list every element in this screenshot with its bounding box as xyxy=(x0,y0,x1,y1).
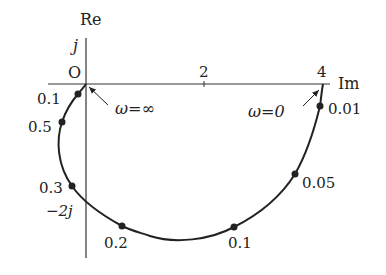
arrow-omega-zero xyxy=(303,90,319,106)
re-axis-label: Re xyxy=(80,10,102,29)
omega-zero-label: ω=0 xyxy=(248,102,285,121)
label-0-3: 0.3 xyxy=(39,179,63,197)
im-axis-label: Im xyxy=(338,74,360,93)
origin-label: O xyxy=(68,63,81,82)
point-0-5 xyxy=(59,119,66,126)
point-0-05 xyxy=(292,171,299,178)
tick-2-label: 2 xyxy=(199,63,209,81)
label-0-1-bottom: 0.1 xyxy=(228,234,252,252)
arrow-omega-inf xyxy=(89,87,108,105)
point-0-2 xyxy=(119,223,126,230)
label-0-05: 0.05 xyxy=(302,174,335,192)
nyquist-plot: Re Im j O 2 4 −2j 0.1 0.5 0.3 0.2 0.1 0.… xyxy=(0,0,386,275)
point-0-1-bottom xyxy=(231,224,238,231)
omega-inf-label: ω=∞ xyxy=(115,99,155,118)
label-0-1-top: 0.1 xyxy=(37,90,61,108)
neg-2j-label: −2j xyxy=(46,202,73,220)
label-0-2: 0.2 xyxy=(104,234,128,252)
j-tick-label: j xyxy=(70,36,78,55)
label-0-01: 0.01 xyxy=(328,100,361,118)
tick-4-label: 4 xyxy=(317,63,327,81)
point-0-3 xyxy=(69,183,76,190)
label-0-5: 0.5 xyxy=(28,118,52,136)
point-0-1-top xyxy=(75,91,82,98)
point-0-01 xyxy=(317,103,324,110)
